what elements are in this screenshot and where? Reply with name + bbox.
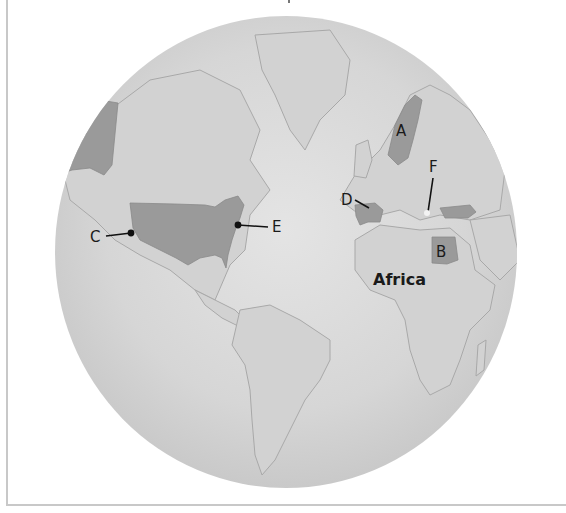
marker-e-dot	[235, 222, 240, 227]
marker-label-b: B	[436, 243, 446, 261]
marker-c-dot	[128, 230, 133, 235]
marker-label-c: C	[90, 228, 100, 246]
marker-label-a: A	[396, 122, 407, 140]
marker-label-d: D	[341, 191, 353, 209]
highlight-spain	[355, 203, 383, 225]
marker-label-f: F	[429, 158, 438, 176]
highlight-alaska	[55, 100, 118, 175]
continent-label-africa: Africa	[373, 270, 426, 289]
marker-f-spot	[424, 210, 430, 216]
marker-label-e: E	[272, 218, 281, 236]
